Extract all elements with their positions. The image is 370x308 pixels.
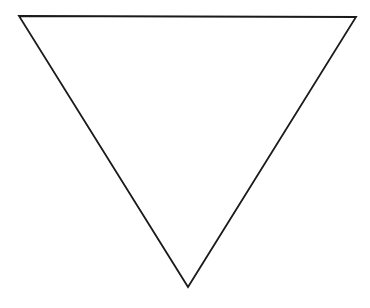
diagram-canvas bbox=[0, 0, 370, 308]
inverted-triangle-shape bbox=[19, 16, 356, 287]
triangle-figure bbox=[0, 0, 370, 308]
